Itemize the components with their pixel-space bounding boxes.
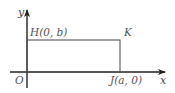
rectangle-ohkj [27, 40, 120, 72]
point-h-label: H(0, b) [29, 26, 67, 38]
point-j-label: J(a, 0) [108, 74, 142, 86]
y-axis-label: y [17, 6, 25, 19]
origin-label: O [15, 74, 24, 86]
point-k-label: K [123, 26, 133, 38]
coordinate-diagram: y H(0, b) K O J(a, 0) x [0, 0, 175, 93]
x-axis-label: x [160, 74, 167, 87]
